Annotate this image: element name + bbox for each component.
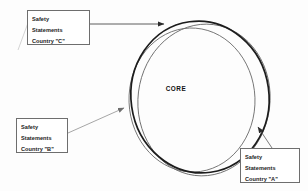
core-label: CORE (166, 85, 187, 92)
label-b-line3: Country "B" (21, 144, 67, 155)
label-b-line2: Statements (21, 133, 67, 144)
label-a-line3: Country "A" (245, 174, 299, 185)
label-c-line3: Country "C" (32, 36, 89, 47)
label-box-country-b: Safety Statements Country "B" (16, 118, 68, 153)
diagram-canvas: CORE Safety Statements Country "C" Safet… (0, 0, 308, 191)
label-box-country-c: Safety Statements Country "C" (27, 10, 90, 45)
label-a-line2: Statements (245, 163, 299, 174)
label-b-line1: Safety (21, 122, 67, 133)
label-c-line1: Safety (32, 14, 89, 25)
label-a-line1: Safety (245, 152, 299, 163)
label-box-country-a: Safety Statements Country "A" (240, 148, 300, 183)
label-c-line2: Statements (32, 25, 89, 36)
leader-line-country-b (68, 108, 124, 133)
